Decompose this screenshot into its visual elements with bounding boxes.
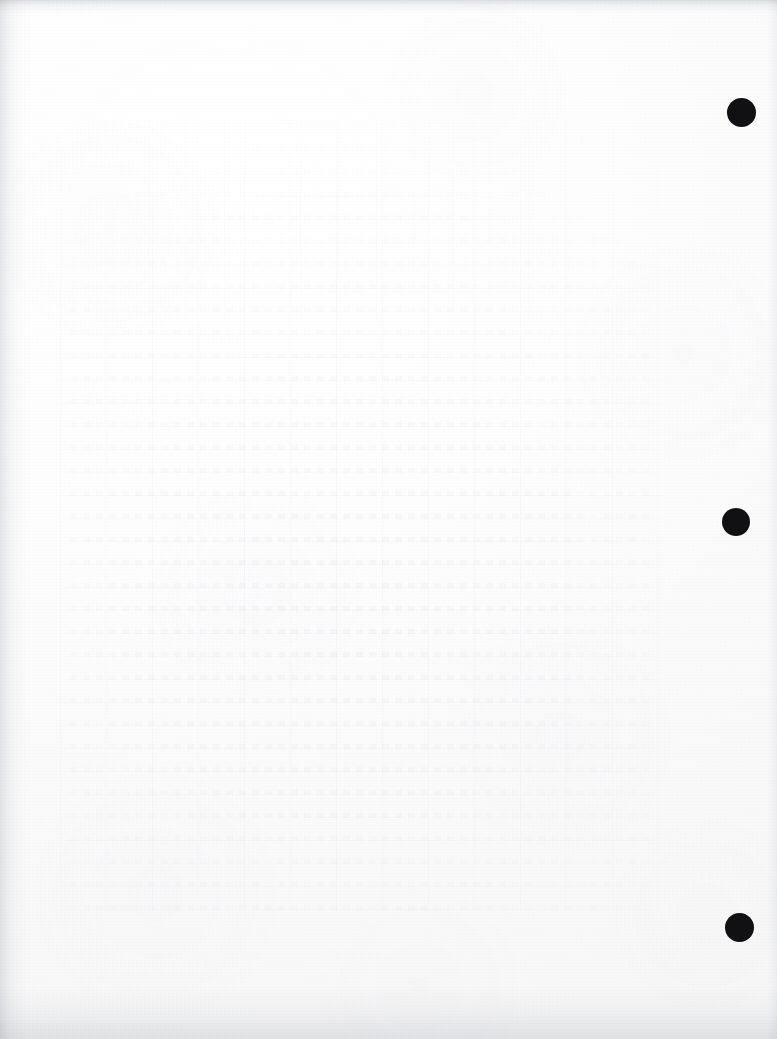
scanned-page: [0, 0, 777, 1039]
scan-edge-shadow-top: [0, 0, 777, 14]
scan-edge-shadow-left: [0, 0, 26, 1039]
punch-mark-middle: [722, 508, 750, 536]
paper-mottle-texture: [0, 0, 777, 1039]
scan-edge-shadow-right: [767, 0, 777, 1039]
scan-edge-shadow-bottom: [0, 987, 777, 1039]
punch-mark-top: [727, 98, 756, 127]
punch-mark-bottom: [725, 913, 754, 942]
